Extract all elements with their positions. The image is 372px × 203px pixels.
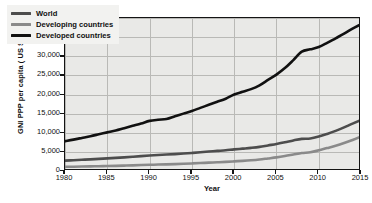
x-tick-label: 1995	[183, 173, 200, 182]
legend-swatch	[11, 12, 31, 15]
x-tick-label: 1980	[56, 173, 73, 182]
legend-item: Developing countries	[11, 19, 113, 30]
x-tick-label: 1990	[140, 173, 157, 182]
legend-swatch	[11, 23, 31, 26]
y-tick-label-text: 20,000	[37, 89, 60, 98]
legend-item: World	[11, 8, 113, 19]
x-tick-label: 2000	[225, 173, 242, 182]
chart-legend: WorldDeveloping countriesDeveloped count…	[7, 5, 119, 44]
x-tick-label: 2005	[267, 173, 284, 182]
y-tick-label-text: 30,000	[37, 50, 60, 59]
x-tick-label: 2015	[352, 173, 369, 182]
x-tick-mark	[232, 170, 233, 174]
x-tick-mark	[106, 170, 107, 174]
x-tick-mark	[359, 170, 360, 174]
y-tick-label-text: 5,000	[41, 146, 60, 155]
y-tick-label-text: 15,000	[37, 108, 60, 117]
series-line	[65, 120, 360, 161]
x-tick-mark	[148, 170, 149, 174]
legend-label: Developing countries	[36, 20, 113, 29]
y-tick-label-text: 25,000	[37, 69, 60, 78]
chart-figure: GNI PPP per capita ( US $) Year 05,00010…	[0, 0, 372, 203]
y-tick-label-text: 10,000	[37, 127, 60, 136]
legend-label: World	[36, 9, 57, 18]
legend-item: Developed countries	[11, 30, 113, 41]
x-tick-mark	[317, 170, 318, 174]
x-tick-mark	[275, 170, 276, 174]
x-tick-label: 1985	[98, 173, 115, 182]
x-tick-label: 2010	[309, 173, 326, 182]
x-tick-mark	[63, 170, 64, 174]
x-axis-title: Year	[64, 184, 360, 193]
legend-swatch	[11, 34, 31, 37]
legend-label: Developed countries	[36, 31, 111, 40]
x-tick-mark	[190, 170, 191, 174]
